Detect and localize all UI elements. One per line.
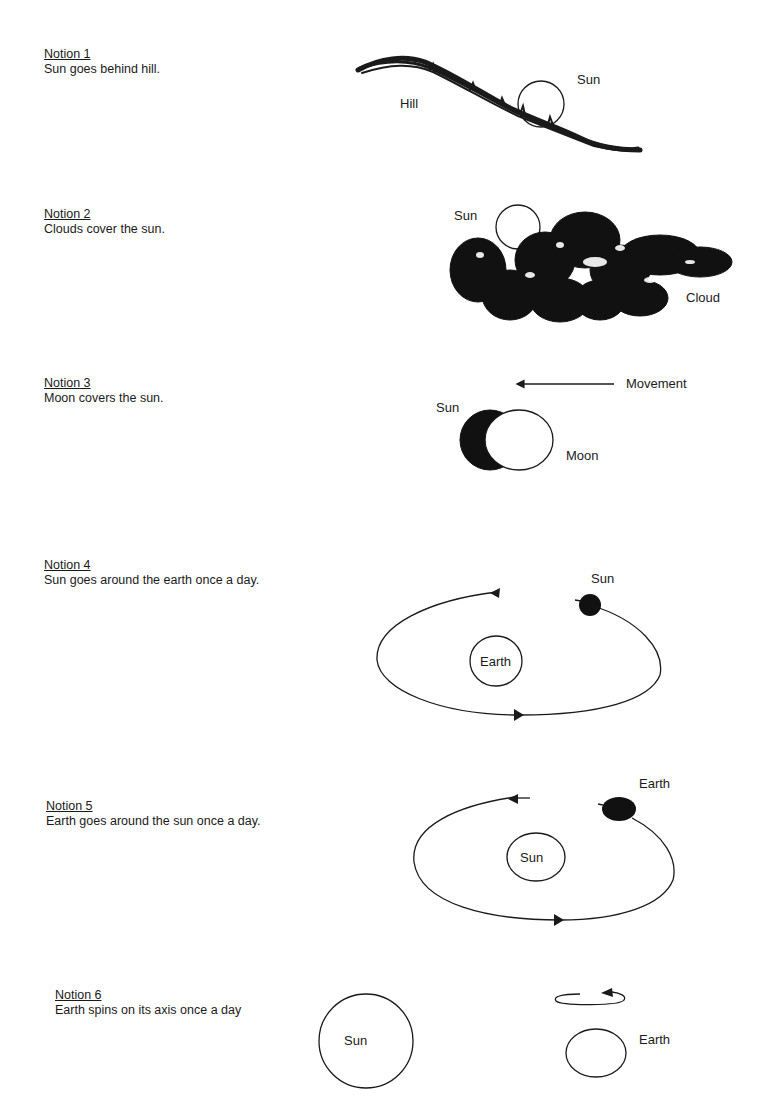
spin-arrow-path — [555, 992, 624, 1005]
sun-label: Sun — [454, 208, 477, 223]
earth-tick — [598, 804, 603, 805]
movement-label: Movement — [626, 376, 687, 391]
moon-ellipse — [485, 410, 553, 470]
spin-arrow-head — [601, 988, 613, 997]
earth-label: Earth — [639, 776, 670, 791]
orbit-arrow-bottom — [514, 709, 524, 721]
sun-label: Sun — [520, 850, 543, 865]
moon-label: Moon — [566, 448, 599, 463]
sun-label: Sun — [577, 72, 600, 87]
orbit-arrow-top — [508, 794, 518, 804]
hill-label: Hill — [400, 96, 418, 111]
diagram-2-cloud-sun: Sun Cloud — [450, 205, 732, 322]
cloud-label: Cloud — [686, 290, 720, 305]
sun-label: Sun — [344, 1033, 367, 1048]
earth-ellipse — [566, 1029, 626, 1077]
sun-tick — [575, 600, 581, 601]
diagram-3-moon-sun: Movement Sun Moon — [436, 376, 687, 470]
cloud-shape — [450, 212, 732, 322]
orbit-arrow-top — [490, 588, 500, 598]
orbit-arrow-bottom — [554, 914, 564, 926]
sun-label: Sun — [436, 400, 459, 415]
earth-label: Earth — [480, 654, 511, 669]
diagram-4-geocentric: Earth Sun — [377, 571, 661, 721]
sun-label: Sun — [591, 571, 614, 586]
diagram-5-heliocentric: Sun Earth — [414, 776, 674, 926]
diagrams: Hill Sun Sun Cloud — [0, 0, 759, 1119]
diagram-1-hill-sun: Hill Sun — [358, 58, 641, 151]
diagram-6-rotation: Sun Earth — [319, 988, 670, 1088]
sun-disc — [579, 594, 601, 616]
earth-label: Earth — [639, 1032, 670, 1047]
earth-disc — [602, 797, 636, 821]
